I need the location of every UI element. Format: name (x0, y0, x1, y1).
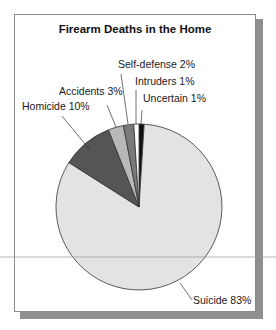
scan-artifact-line (0, 256, 276, 258)
leader-self-defense (121, 74, 128, 124)
label-self-defense: Self-defense 2% (118, 58, 195, 70)
leader-homicide (62, 116, 90, 150)
label-intruders: Intruders 1% (135, 75, 195, 87)
label-homicide: Homicide 10% (22, 100, 90, 112)
label-suicide: Suicide 83% (193, 294, 251, 306)
leader-uncertain (141, 110, 142, 124)
pie-chart (0, 0, 276, 330)
leader-accidents (107, 105, 116, 127)
label-accidents: Accidents 3% (59, 85, 123, 97)
leader-suicide (180, 283, 192, 300)
label-uncertain: Uncertain 1% (143, 92, 206, 104)
